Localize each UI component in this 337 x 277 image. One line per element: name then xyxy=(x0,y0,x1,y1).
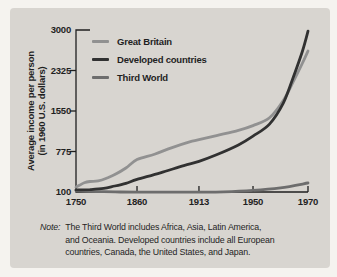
legend-label: Third World xyxy=(117,72,168,83)
legend-label: Developed countries xyxy=(117,54,207,65)
x-tick-label: 1750 xyxy=(59,197,93,207)
legend-label: Great Britain xyxy=(117,36,172,47)
note-text: The Third World includes Africa, Asia, L… xyxy=(65,221,274,259)
legend: Great BritainDeveloped countriesThird Wo… xyxy=(92,32,207,86)
y-tick-label: 3000 xyxy=(37,25,71,35)
note-label: Note: xyxy=(40,221,60,259)
legend-swatch-icon xyxy=(92,40,109,43)
note-line: The Third World includes Africa, Asia, L… xyxy=(65,221,274,234)
y-axis-title-line2: (in 1960 U.S. dollars) xyxy=(36,51,47,171)
x-tick-label: 1970 xyxy=(291,197,325,207)
legend-swatch-icon xyxy=(92,58,109,61)
x-tick-label: 1860 xyxy=(120,197,154,207)
y-axis-title-line1: Average income per person xyxy=(25,51,36,171)
legend-item: Third World xyxy=(92,68,207,86)
legend-swatch-icon xyxy=(92,76,109,79)
legend-item: Great Britain xyxy=(92,32,207,50)
legend-item: Developed countries xyxy=(92,50,207,68)
note: Note: The Third World includes Africa, A… xyxy=(40,221,328,259)
x-tick-label: 1913 xyxy=(182,197,216,207)
note-line: and Oceania. Developed countries include… xyxy=(65,234,274,247)
note-line: countries, Canada, the United States, an… xyxy=(65,246,274,259)
x-tick-label: 1950 xyxy=(236,197,270,207)
